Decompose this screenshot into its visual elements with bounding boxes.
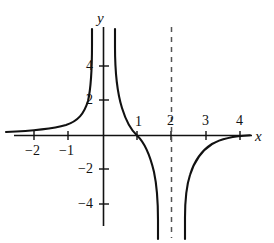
y-axis-label: y [97,11,104,26]
curve-branch-left [6,29,92,132]
x-tick-label-3: 3 [202,114,209,128]
graph-figure: y x −2 −1 1 2 3 4 4 2 −2 −4 [0,0,274,243]
y-tick-label--2: −2 [78,162,93,176]
y-tick-label-4: 4 [86,59,93,73]
curve-branch-middle [115,29,158,239]
x-tick-label-1: 1 [135,115,142,129]
x-tick-label-4: 4 [236,114,243,128]
curve-branch-right [185,135,250,239]
y-tick-label--4: −4 [78,197,93,211]
x-tick-label--2: −2 [25,144,40,158]
x-tick-label--1: −1 [59,144,74,158]
x-axis-label: x [255,129,262,144]
y-tick-label-2: 2 [86,93,93,107]
x-tick-label-2: 2 [167,114,174,128]
